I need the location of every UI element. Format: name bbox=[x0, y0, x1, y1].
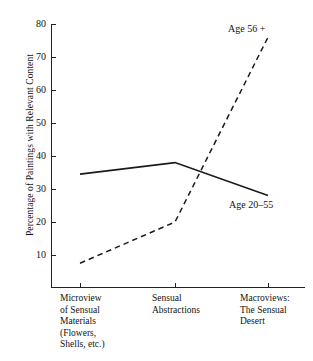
series-line-age-20-55 bbox=[80, 163, 268, 196]
plot-area bbox=[0, 0, 313, 361]
series-annotation-age-20-55: Age 20–55 bbox=[229, 199, 273, 210]
series-line-age-56-plus bbox=[80, 37, 268, 263]
series-annotation-age-56-plus: Age 56 + bbox=[228, 23, 265, 34]
line-chart: Percentage of Paintings with Relevant Co… bbox=[0, 0, 313, 361]
